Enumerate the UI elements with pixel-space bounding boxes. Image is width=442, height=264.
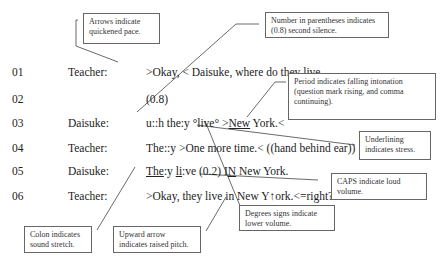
utterance-segment: u::h the:y °live° > — [146, 117, 228, 129]
utterance: >Okay, they live in New Y↑ork.<=right? — [146, 189, 333, 203]
speaker: Teacher: — [68, 141, 107, 155]
utterance-segment: (0.8) — [146, 93, 168, 105]
note-underlining: Underlining indicates stress. — [359, 131, 431, 160]
note-upward-arrow: Upward arrow indicates raised pitch. — [113, 226, 201, 253]
speaker: Teacher: — [68, 189, 107, 203]
utterance-segment: New York. — [236, 165, 288, 177]
utterance: (0.8) — [146, 92, 168, 106]
utterance-segment: >Okay, they live in New Y↑ork.<=right? — [146, 190, 333, 202]
note-number-in-parentheses: Number in parentheses indicates (0.8) se… — [265, 12, 389, 38]
utterance-segment-stressed: The — [146, 165, 164, 177]
note-colon: Colon indicates sound stretch. — [24, 226, 92, 253]
utterance-segment-stressed: New — [228, 117, 250, 129]
utterance-segment: The::y >One more time.< ((hand behind ea… — [146, 142, 355, 154]
line-number: 05 — [12, 164, 24, 178]
utterance-segment: York.< — [250, 117, 284, 129]
utterance-segment: :ve (0.2) I — [182, 165, 228, 177]
utterance: The::y >One more time.< ((hand behind ea… — [146, 141, 355, 155]
utterance-segment-stressed: N — [228, 165, 236, 177]
speaker: Daisuke: — [68, 164, 109, 178]
line-number: 06 — [12, 189, 24, 203]
utterance: The:y li:ve (0.2) IN New York. — [146, 164, 289, 178]
line-number: 01 — [12, 65, 24, 79]
note-caps: CAPS indicate loud volume. — [331, 173, 427, 200]
speaker: Teacher: — [68, 65, 107, 79]
speaker: Daisuke: — [68, 116, 109, 130]
line-number: 03 — [12, 116, 24, 130]
line-number: 04 — [12, 141, 24, 155]
note-period: Period indicates falling intonation (que… — [288, 73, 436, 120]
line-number: 02 — [12, 92, 24, 106]
utterance: u::h the:y °live° >New York.< — [146, 116, 284, 130]
note-degrees: Degrees signs indicate lower volume. — [239, 205, 335, 231]
note-arrows: Arrows indicate quickened pace. — [83, 13, 160, 44]
utterance-segment: :y — [164, 165, 176, 177]
